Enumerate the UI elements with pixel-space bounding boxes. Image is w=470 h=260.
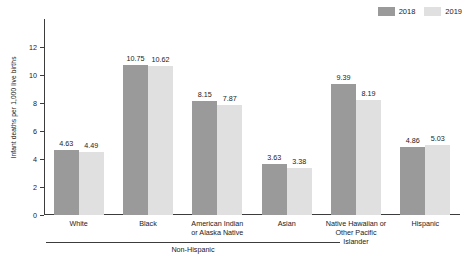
bar-group: 10.7510.62 xyxy=(113,19,182,215)
bar-group: 9.398.19 xyxy=(321,19,390,215)
bar-rect[interactable] xyxy=(287,168,312,215)
legend-entry-2018[interactable]: 2018 xyxy=(378,7,416,16)
bar-groups: 4.634.4910.7510.628.157.873.633.389.398.… xyxy=(44,19,460,215)
bar-group: 3.633.38 xyxy=(252,19,321,215)
infant-mortality-bar-chart: 2018 2019 Infant deaths per 1,000 live b… xyxy=(0,0,470,260)
legend-swatch-2018 xyxy=(378,7,395,16)
bar-value-label: 10.75 xyxy=(126,54,144,63)
legend-entry-2019[interactable]: 2019 xyxy=(424,7,462,16)
bar-value-label: 3.38 xyxy=(292,157,306,166)
legend-label-2018: 2018 xyxy=(399,7,416,16)
bar-2018[interactable]: 9.39 xyxy=(331,19,356,215)
y-tick-0 xyxy=(40,215,44,216)
bar-2019[interactable]: 8.19 xyxy=(356,19,381,215)
non-hispanic-bracket-label: Non-Hispanic xyxy=(46,245,340,254)
bar-2018[interactable]: 4.63 xyxy=(54,19,79,215)
legend-swatch-2019 xyxy=(424,7,441,16)
bar-rect[interactable] xyxy=(425,145,450,215)
bar-rect[interactable] xyxy=(400,147,425,215)
bar-value-label: 8.19 xyxy=(361,89,375,98)
bar-group: 8.157.87 xyxy=(183,19,252,215)
bar-2018[interactable]: 8.15 xyxy=(192,19,217,215)
bar-rect[interactable] xyxy=(192,101,217,215)
bar-2019[interactable]: 3.38 xyxy=(287,19,312,215)
y-tick-label-0: 0 xyxy=(33,211,37,220)
bar-value-label: 7.87 xyxy=(223,94,237,103)
chart-legend: 2018 2019 xyxy=(378,7,462,16)
bar-value-label: 4.49 xyxy=(84,141,98,150)
y-tick-label-2: 2 xyxy=(33,183,37,192)
bar-2018[interactable]: 3.63 xyxy=(262,19,287,215)
bar-value-label: 5.03 xyxy=(431,134,445,143)
bar-2018[interactable]: 4.86 xyxy=(400,19,425,215)
bar-value-label: 4.63 xyxy=(59,139,73,148)
y-tick-label-8: 8 xyxy=(33,99,37,108)
bar-2019[interactable]: 7.87 xyxy=(217,19,242,215)
bar-value-label: 3.63 xyxy=(267,153,281,162)
bar-rect[interactable] xyxy=(331,84,356,215)
bar-2019[interactable]: 4.49 xyxy=(79,19,104,215)
bar-value-label: 10.62 xyxy=(151,55,169,64)
bar-rect[interactable] xyxy=(262,164,287,215)
bar-group: 4.865.03 xyxy=(391,19,460,215)
bar-rect[interactable] xyxy=(356,100,381,215)
bar-rect[interactable] xyxy=(54,150,79,215)
bar-rect[interactable] xyxy=(79,152,104,215)
category-label: Hispanic xyxy=(391,219,460,246)
y-tick-label-12: 12 xyxy=(29,43,37,52)
bar-rect[interactable] xyxy=(123,65,148,216)
plot-area: 024681012 4.634.4910.7510.628.157.873.63… xyxy=(44,19,460,215)
bar-rect[interactable] xyxy=(148,66,173,215)
bar-rect[interactable] xyxy=(217,105,242,215)
bar-2019[interactable]: 10.62 xyxy=(148,19,173,215)
y-tick-label-10: 10 xyxy=(29,71,37,80)
bar-value-label: 4.86 xyxy=(406,136,420,145)
bar-value-label: 9.39 xyxy=(336,73,350,82)
y-axis-title: Infant deaths per 1,000 live births xyxy=(6,0,20,215)
bar-2018[interactable]: 10.75 xyxy=(123,19,148,215)
y-tick-label-6: 6 xyxy=(33,127,37,136)
y-axis-title-text: Infant deaths per 1,000 live births xyxy=(10,56,17,158)
bar-value-label: 8.15 xyxy=(198,90,212,99)
y-tick-label-4: 4 xyxy=(33,155,37,164)
non-hispanic-bracket-line xyxy=(46,242,340,243)
legend-label-2019: 2019 xyxy=(445,7,462,16)
bar-group: 4.634.49 xyxy=(44,19,113,215)
bar-2019[interactable]: 5.03 xyxy=(425,19,450,215)
